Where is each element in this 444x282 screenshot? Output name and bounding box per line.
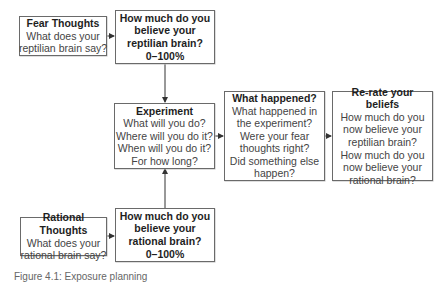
node-line: reptilian brain say? xyxy=(19,42,107,55)
node-line: Were your fear xyxy=(240,130,309,143)
node-line: believe your xyxy=(134,222,195,235)
node-line: 0–100% xyxy=(146,248,185,261)
node-line: Where will you do it? xyxy=(116,130,213,143)
node-title: Rational Thoughts xyxy=(24,211,103,236)
node-rational-belief: How much do you believe your rational br… xyxy=(115,208,215,262)
node-experiment: Experiment What will you do? Where will … xyxy=(114,103,215,169)
node-rerate-beliefs: Re-rate your beliefs How much do you now… xyxy=(332,91,433,181)
node-line: What does your xyxy=(27,237,101,250)
node-what-happened: What happened? What happened in the expe… xyxy=(224,91,325,181)
node-reptilian-belief: How much do you believe your reptilian b… xyxy=(115,10,215,64)
node-line: How much do you xyxy=(120,12,210,25)
node-title: Re-rate your beliefs xyxy=(336,86,429,111)
node-line: Did something else xyxy=(230,155,319,168)
node-line: What will you do? xyxy=(123,117,205,130)
node-title: What happened? xyxy=(232,92,317,105)
node-line: How much do you xyxy=(120,210,210,223)
node-line: rational brain? xyxy=(349,174,416,187)
node-line: How much do you xyxy=(340,149,424,162)
node-line: reptilian brain? xyxy=(348,136,417,149)
node-line: For how long? xyxy=(131,155,198,168)
figure-caption: Figure 4.1: Exposure planning xyxy=(14,271,147,282)
node-line: reptilian brain? xyxy=(127,37,203,50)
node-line: happen? xyxy=(254,167,295,180)
node-line: the experiment? xyxy=(237,117,312,130)
node-line: What does your xyxy=(26,30,100,43)
node-rational-thoughts: Rational Thoughts What does your rationa… xyxy=(20,217,107,256)
node-title: Experiment xyxy=(136,105,193,118)
node-line: What happened in xyxy=(232,105,317,118)
node-line: How much do you xyxy=(340,111,424,124)
node-line: When will you do it? xyxy=(118,142,211,155)
node-line: rational brain say? xyxy=(21,249,107,262)
node-line: now believe your xyxy=(343,161,422,174)
node-line: 0–100% xyxy=(146,50,185,63)
node-fear-thoughts: Fear Thoughts What does your reptilian b… xyxy=(19,16,107,56)
node-line: thoughts right? xyxy=(240,142,309,155)
node-line: rational brain? xyxy=(129,235,202,248)
node-line: now believe your xyxy=(343,123,422,136)
node-line: believe your xyxy=(134,24,195,37)
node-title: Fear Thoughts xyxy=(27,17,100,30)
